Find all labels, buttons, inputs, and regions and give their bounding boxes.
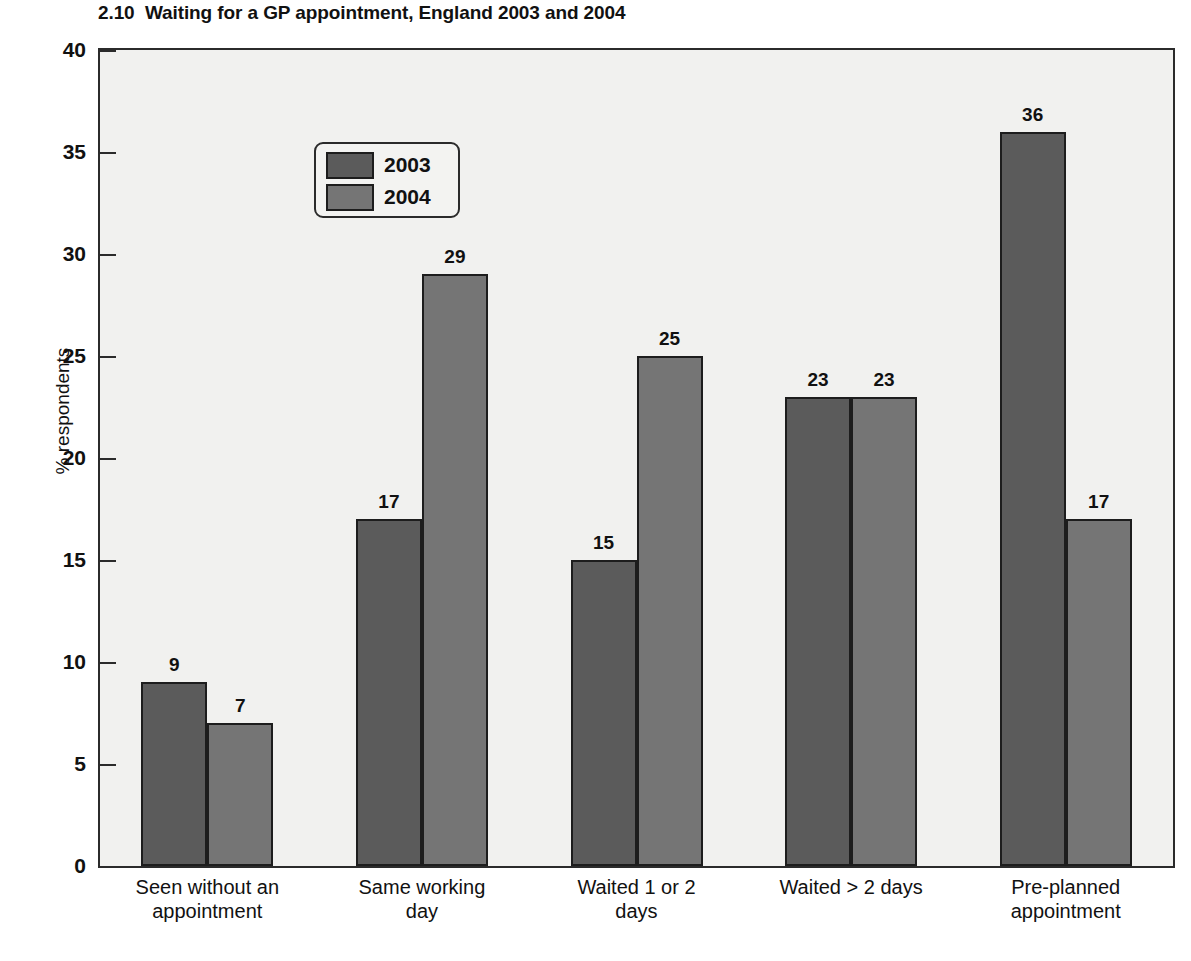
bar-2004-5 <box>1066 519 1132 866</box>
bar-2003-3 <box>571 560 637 866</box>
bar-value-label: 9 <box>121 655 227 674</box>
y-tick-label: 35 <box>30 141 86 162</box>
bar-value-label: 25 <box>617 329 723 348</box>
chart-title: 2.10 Waiting for a GP appointment, Engla… <box>98 2 626 24</box>
y-tick-label: 5 <box>30 753 86 774</box>
x-category-label: Waited 1 or 2 days <box>529 876 744 923</box>
y-tick-label: 30 <box>30 243 86 264</box>
bar-2004-4 <box>851 397 917 866</box>
bar-value-label: 36 <box>980 105 1086 124</box>
y-tick-mark <box>100 458 116 460</box>
bar-value-label: 29 <box>402 247 508 266</box>
y-tick-mark <box>100 866 116 868</box>
plot-inner: 971729152523233617 <box>100 50 1173 866</box>
y-tick-label: 10 <box>30 651 86 672</box>
y-tick-label: 20 <box>30 447 86 468</box>
y-tick-label: 15 <box>30 549 86 570</box>
y-tick-mark <box>100 50 116 52</box>
legend-label-2003: 2003 <box>384 153 431 176</box>
legend: 2003 2004 <box>314 142 460 218</box>
y-tick-label: 25 <box>30 345 86 366</box>
x-category-label: Same working day <box>315 876 530 923</box>
y-tick-mark <box>100 254 116 256</box>
bar-2003-4 <box>785 397 851 866</box>
bar-value-label: 17 <box>1046 492 1152 511</box>
y-tick-mark <box>100 560 116 562</box>
x-category-label: Pre-planned appointment <box>958 876 1173 923</box>
bar-2003-2 <box>356 519 422 866</box>
y-tick-mark <box>100 152 116 154</box>
bar-2004-1 <box>207 723 273 866</box>
plot-area: 971729152523233617 2003 2004 <box>98 48 1175 868</box>
bar-value-label: 23 <box>831 370 937 389</box>
y-tick-label: 40 <box>30 39 86 60</box>
y-tick-label: 0 <box>30 855 86 876</box>
y-tick-mark <box>100 662 116 664</box>
bar-value-label: 7 <box>187 696 293 715</box>
legend-swatch-2004 <box>326 184 374 211</box>
x-category-label: Waited > 2 days <box>744 876 959 900</box>
legend-swatch-2003 <box>326 152 374 179</box>
bar-2004-3 <box>637 356 703 866</box>
legend-label-2004: 2004 <box>384 185 431 208</box>
bar-2004-2 <box>422 274 488 866</box>
x-category-label: Seen without an appointment <box>100 876 315 923</box>
y-tick-mark <box>100 356 116 358</box>
y-tick-mark <box>100 764 116 766</box>
